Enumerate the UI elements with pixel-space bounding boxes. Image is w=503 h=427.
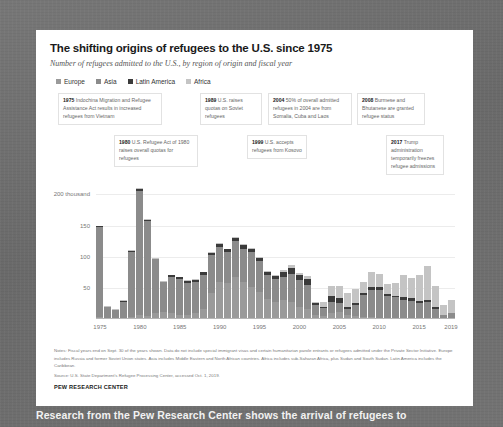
bar-column[interactable] <box>360 185 367 319</box>
x-axis-tick-label: 1980 <box>133 324 146 330</box>
bar-column[interactable] <box>408 185 415 319</box>
bar-column[interactable] <box>400 185 407 319</box>
annotation-year: 1975 <box>63 97 74 103</box>
bar-segment-africa <box>384 284 391 294</box>
legend-item-europe[interactable]: Europe <box>56 78 85 85</box>
legend-item-latin-america[interactable]: Latin America <box>128 78 175 85</box>
y-axis-tick-label: 150 <box>80 223 90 229</box>
bar-column[interactable] <box>264 185 271 319</box>
bar-segment-asia <box>360 295 367 317</box>
bar-segment-europe <box>264 299 271 319</box>
legend-swatch-icon <box>56 79 61 84</box>
bar-column[interactable] <box>184 185 191 319</box>
annotation-year: 1989 <box>205 97 216 103</box>
bar-segment-asia <box>168 277 175 313</box>
legend-item-africa[interactable]: Africa <box>186 78 211 85</box>
bar-segment-europe <box>288 302 295 319</box>
legend-label: Latin America <box>136 78 175 85</box>
bar-column[interactable] <box>312 185 319 319</box>
bar-column[interactable] <box>320 185 327 319</box>
bar-column[interactable] <box>96 185 103 319</box>
bar-column[interactable] <box>240 185 247 319</box>
bar-column[interactable] <box>368 185 375 319</box>
bar-column[interactable] <box>416 185 423 319</box>
bar-column[interactable] <box>200 185 207 319</box>
bar-column[interactable] <box>232 185 239 319</box>
bar-column[interactable] <box>344 185 351 319</box>
bar-segment-asia <box>160 282 167 311</box>
bar-column[interactable] <box>376 185 383 319</box>
bar-column[interactable] <box>384 185 391 319</box>
legend-label: Africa <box>194 78 211 85</box>
bar-column[interactable] <box>112 185 119 319</box>
bar-column[interactable] <box>104 185 111 319</box>
x-axis-tick-label: 2005 <box>333 324 346 330</box>
bar-column[interactable] <box>424 185 431 319</box>
chart-footer-brand: PEW RESEARCH CENTER <box>54 384 455 390</box>
bar-segment-europe <box>296 307 303 319</box>
annotation-layer: 1975 Indochina Migration and Refugee Ass… <box>52 93 457 185</box>
bar-segment-asia <box>248 252 255 286</box>
annotation-2008: 2008 Burmese and Bhutanese are granted r… <box>357 93 425 125</box>
bar-column[interactable] <box>144 185 151 319</box>
bar-segment-africa <box>336 286 343 298</box>
bar-column[interactable] <box>336 185 343 319</box>
annotation-year: 2008 <box>362 97 373 103</box>
x-axis-tick-label: 2015 <box>412 324 425 330</box>
bar-column[interactable] <box>440 185 447 319</box>
bar-segment-asia <box>336 303 343 312</box>
bar-segment-asia <box>192 282 199 313</box>
bar-column[interactable] <box>448 185 455 319</box>
bar-segment-africa <box>448 300 455 312</box>
bar-segment-asia <box>384 296 391 318</box>
bar-segment-europe <box>240 282 247 319</box>
bar-column[interactable] <box>272 185 279 319</box>
bar-column[interactable] <box>304 185 311 319</box>
bar-segment-asia <box>312 305 319 315</box>
bar-column[interactable] <box>352 185 359 319</box>
x-axis-tick-label: 1985 <box>173 324 186 330</box>
bar-segment-europe <box>224 283 231 319</box>
bar-segment-africa <box>416 275 423 301</box>
bar-column[interactable] <box>328 185 335 319</box>
annotation-text: Indochina Migration and Refugee Assistan… <box>63 97 151 119</box>
bar-column[interactable] <box>176 185 183 319</box>
annotation-year: 1980 <box>119 139 130 145</box>
legend-item-asia[interactable]: Asia <box>96 78 117 85</box>
legend-swatch-icon <box>186 79 191 84</box>
bar-column[interactable] <box>224 185 231 319</box>
bar-column[interactable] <box>168 185 175 319</box>
legend-label: Asia <box>104 78 117 85</box>
bar-segment-asia <box>432 309 439 318</box>
bar-column[interactable] <box>128 185 135 319</box>
bar-column[interactable] <box>288 185 295 319</box>
bar-column[interactable] <box>216 185 223 319</box>
bar-column[interactable] <box>160 185 167 319</box>
y-axis-tick-label: 100 <box>80 254 90 260</box>
annotation-1975: 1975 Indochina Migration and Refugee Ass… <box>58 93 162 125</box>
x-axis-tick-label: 1975 <box>93 324 106 330</box>
bar-column[interactable] <box>432 185 439 319</box>
bar-column[interactable] <box>256 185 263 319</box>
bar-segment-asia <box>232 241 239 277</box>
bar-segment-africa <box>352 289 359 303</box>
annotation-year: 1999 <box>252 139 263 145</box>
bar-column[interactable] <box>136 185 143 319</box>
bar-column[interactable] <box>192 185 199 319</box>
bar-column[interactable] <box>296 185 303 319</box>
chart-subtitle: Number of refugees admitted to the U.S.,… <box>50 59 459 68</box>
bar-column[interactable] <box>208 185 215 319</box>
x-axis-line <box>96 318 455 319</box>
bar-segment-asia <box>224 252 231 283</box>
bar-segment-europe <box>256 292 263 319</box>
bar-column[interactable] <box>280 185 287 319</box>
bar-column[interactable] <box>248 185 255 319</box>
bar-segment-asia <box>104 307 111 318</box>
bar-column[interactable] <box>120 185 127 319</box>
bar-column[interactable] <box>392 185 399 319</box>
bar-segment-europe <box>216 282 223 319</box>
bar-segment-europe <box>248 287 255 319</box>
bar-segment-asia <box>416 303 423 319</box>
bar-column[interactable] <box>152 185 159 319</box>
bar-segment-asia <box>208 255 215 292</box>
